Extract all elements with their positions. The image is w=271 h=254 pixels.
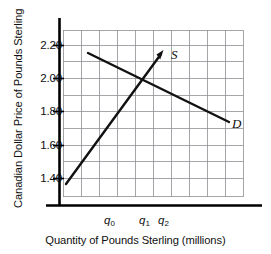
x-tick-label-q2: q2 [158, 214, 169, 226]
exchange-rate-supply-demand-chart: Canadian Dollar Price of Pounds Sterling… [0, 0, 271, 254]
x-tick-q0-sub: 0 [110, 219, 114, 228]
x-tick-q2-sub: 2 [164, 219, 168, 228]
x-tick-label-q0: q0 [104, 214, 115, 226]
grid-horizontal-lines [63, 31, 243, 197]
x-axis-title: Quantity of Pounds Sterling (millions) [0, 234, 271, 246]
plot-area [0, 0, 271, 254]
supply-curve-label: S [171, 47, 178, 63]
supply-curve [66, 54, 161, 184]
demand-curve-label: D [232, 116, 241, 132]
x-tick-label-q1: q1 [139, 214, 150, 226]
x-tick-q1-sub: 1 [145, 219, 149, 228]
